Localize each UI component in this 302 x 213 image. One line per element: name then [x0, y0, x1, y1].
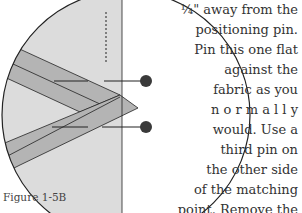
body-text-line: fabric as you [213, 80, 298, 100]
pin-1-head [140, 75, 152, 87]
pin-2-head [140, 121, 152, 133]
body-text-line: against the [224, 60, 298, 80]
body-text-line: would. Use a [213, 120, 298, 140]
body-text-line: point. Remove the [178, 200, 298, 213]
figure-caption: Figure 1-5B [3, 191, 66, 203]
body-text-line: the other side [206, 160, 298, 180]
body-text-line: n o r m a l l y [211, 100, 298, 120]
body-text-line: of the matching [194, 180, 298, 200]
body-text-line: ¼" away from the [181, 0, 298, 20]
body-text-line: third pin on [220, 140, 298, 160]
body-text-line: positioning pin. [195, 20, 298, 40]
body-text-line: Pin this one flat [194, 40, 298, 60]
